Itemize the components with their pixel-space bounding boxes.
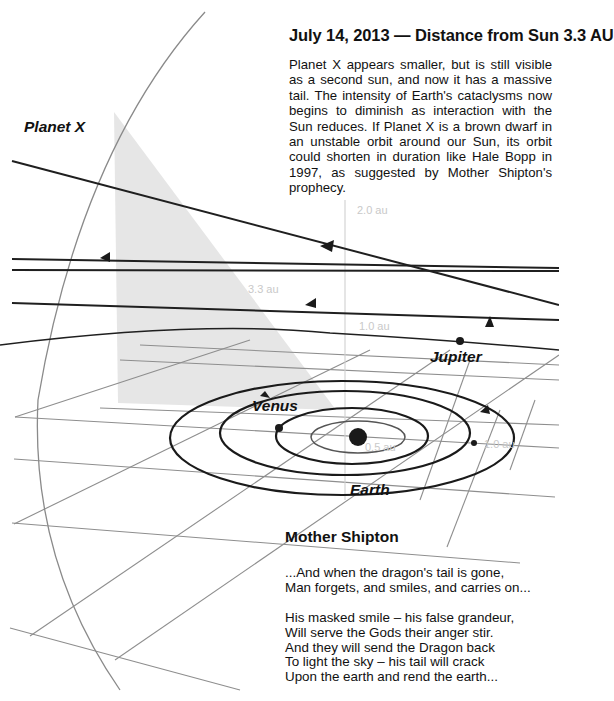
- venus-dot: [275, 424, 283, 432]
- page-title: July 14, 2013 — Distance from Sun 3.3 AU: [289, 26, 614, 45]
- au-marker-1-0-plane: 1.0 au: [484, 438, 515, 450]
- venus-label: Venus: [252, 397, 298, 415]
- au-marker-3-3: 3.3 au: [248, 283, 279, 295]
- au-marker-1-0-vertical: 1.0 au: [359, 320, 390, 332]
- planet-x-label: Planet X: [24, 118, 85, 136]
- earth-dot: [471, 440, 477, 446]
- au-marker-0-5: 0.5 au: [365, 441, 396, 453]
- jupiter-dot: [456, 337, 464, 345]
- intro-paragraph: Planet X appears smaller, but is still v…: [289, 57, 552, 196]
- jupiter-label: Jupiter: [430, 348, 482, 366]
- inner-orbits: [170, 381, 514, 495]
- poem-title: Mother Shipton: [285, 528, 399, 546]
- au-marker-2-0: 2.0 au: [357, 204, 388, 216]
- poem-stanza-1: ...And when the dragon's tail is gone, M…: [285, 566, 531, 596]
- earth-label: Earth: [350, 481, 390, 499]
- poem-stanza-2: His masked smile – his false grandeur, W…: [285, 611, 514, 685]
